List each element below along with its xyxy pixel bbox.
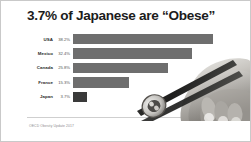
bar-category-label: Canada: [27, 65, 53, 70]
bar-value-label: 3.7%: [53, 94, 73, 99]
page-title: 3.7% of Japanese are “Obese”: [27, 9, 232, 23]
sushi-roll-shape: [138, 91, 169, 121]
bar-value-label: 15.3%: [53, 80, 73, 85]
infographic-slide: 3.7% of Japanese are “Obese” USA 38.2% M…: [0, 0, 251, 142]
bar-japan: [73, 92, 87, 103]
bar-category-label: France: [27, 80, 53, 85]
source-citation: OECD Obesity Update 2017: [29, 124, 74, 128]
bar-value-label: 25.8%: [53, 65, 73, 70]
bar-value-label: 38.2%: [53, 37, 73, 42]
bar-category-label: Mexico: [27, 51, 53, 56]
hand-holding-chopsticks-with-sushi-icon: [135, 35, 250, 121]
bar-france: [73, 77, 129, 88]
bar-value-label: 32.4%: [53, 51, 73, 56]
bar-category-label: USA: [27, 37, 53, 42]
bar-category-label: Japan: [27, 94, 53, 99]
